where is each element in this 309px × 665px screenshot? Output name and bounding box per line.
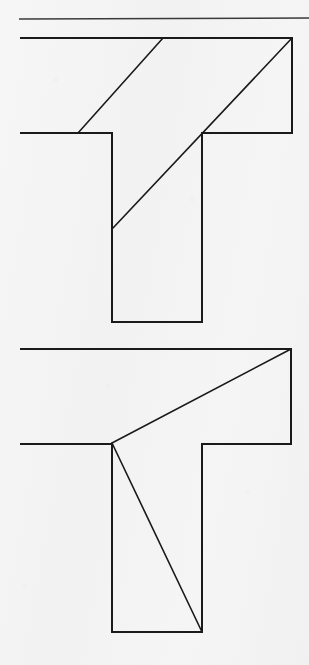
figure-canvas [0, 0, 309, 665]
cut-line-bottom-lower-diagonal [112, 443, 202, 632]
cut-line-top-short-diagonal [78, 38, 163, 133]
cut-line-bottom-upper-diagonal [112, 349, 291, 443]
top-horizontal-rule [19, 18, 309, 19]
page-root: Geometric dissection puzzle: two T-shape… [0, 0, 309, 665]
figure-bottom [21, 349, 291, 632]
t-outline-bottom [21, 349, 291, 632]
figure-top [21, 38, 292, 322]
